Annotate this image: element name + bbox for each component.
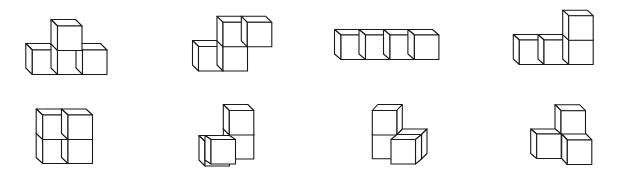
cube-front-face [391, 140, 416, 165]
cube-4 [62, 109, 93, 140]
cube-left-face [538, 35, 544, 65]
cube-2 [531, 129, 562, 159]
cube-3 [562, 134, 592, 165]
cube-front-face [569, 40, 594, 65]
cube-left-face [205, 136, 211, 165]
cube-front-face [223, 47, 248, 72]
cube-left-face [408, 30, 415, 60]
cube-front-face [569, 16, 594, 41]
cube-1 [555, 105, 586, 136]
cube-2 [223, 105, 254, 136]
cube-4 [241, 16, 271, 47]
cube-front-face [372, 111, 397, 136]
cube-left-face [223, 105, 229, 136]
figure-2 [193, 16, 272, 71]
cube-front-face [68, 139, 93, 164]
cube-front-face [211, 140, 236, 165]
cube-front-face [567, 140, 592, 165]
cube-4 [205, 136, 236, 165]
polycube-diagram [0, 0, 619, 178]
cube-4 [563, 10, 594, 40]
cube-front-face [537, 134, 562, 159]
figure-7 [372, 105, 427, 165]
cube-left-face [384, 30, 391, 60]
cube-2 [372, 105, 402, 136]
figure-4 [513, 10, 593, 64]
cube-front-face [229, 111, 254, 136]
cube-left-face [199, 136, 205, 167]
cube-left-face [335, 30, 342, 60]
cube-right-face [422, 129, 428, 159]
cube-left-face [241, 16, 247, 47]
figure-5 [36, 109, 92, 164]
cube-4 [408, 30, 439, 60]
cube-front-face [58, 26, 83, 51]
cube-front-face [561, 111, 586, 136]
cube-right-face [416, 135, 422, 165]
cube-front-face [247, 22, 271, 47]
cube-4 [391, 135, 422, 165]
cube-left-face [217, 16, 223, 47]
figures-group [26, 10, 593, 166]
cube-front-face [68, 115, 93, 140]
figure-8 [531, 105, 592, 165]
cube-left-face [563, 10, 569, 40]
cube-left-face [531, 129, 537, 159]
figure-3 [335, 30, 439, 60]
cube-left-face [36, 109, 43, 140]
cube-left-face [562, 134, 568, 165]
cube-left-face [193, 41, 199, 72]
figure-6 [199, 105, 254, 167]
cube-front-face [83, 50, 108, 75]
cube-left-face [513, 35, 519, 65]
cube-front-face [414, 35, 439, 60]
cube-4 [51, 20, 82, 51]
figure-1 [26, 20, 107, 75]
cube-left-face [62, 109, 69, 140]
cube-left-face [359, 30, 366, 60]
